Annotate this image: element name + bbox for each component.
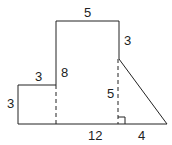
label-inner-right-height: 5 <box>107 86 114 101</box>
label-small-top: 3 <box>35 69 42 84</box>
label-small-left: 3 <box>7 96 14 111</box>
label-inner-left-height: 8 <box>61 65 68 80</box>
composite-figure: 5 3 8 3 3 5 12 4 <box>0 0 172 145</box>
right-angle-marker <box>118 117 125 124</box>
label-triangle-base: 4 <box>138 128 145 143</box>
label-right-upper: 3 <box>124 33 131 48</box>
label-base: 12 <box>88 128 102 143</box>
label-top-width: 5 <box>84 5 91 20</box>
